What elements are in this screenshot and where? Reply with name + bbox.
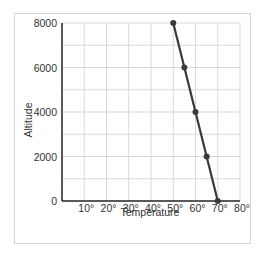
y-tick-label: 6000 — [34, 62, 58, 74]
y-tick-label: 0 — [51, 195, 57, 207]
x-axis-label: Temperature — [121, 206, 180, 218]
data-point — [170, 20, 176, 26]
y-axis-label: Altitude — [22, 102, 34, 137]
y-tick-label: 4000 — [34, 106, 58, 118]
data-point — [193, 109, 199, 115]
x-tick-label: 20° — [101, 202, 117, 214]
x-tick-label: 10° — [78, 202, 94, 214]
y-tick-label: 8000 — [34, 17, 58, 29]
data-point — [181, 65, 187, 71]
data-point — [215, 198, 221, 204]
y-tick-labels: 02000400060008000 — [34, 17, 58, 207]
line-chart: 02000400060008000 10°20°30°40°50°60°70°8… — [0, 0, 266, 260]
grid — [62, 23, 240, 201]
x-tick-label: 80° — [234, 202, 250, 214]
y-tick-label: 2000 — [34, 151, 58, 163]
data-point — [204, 154, 210, 160]
x-tick-label: 70° — [212, 202, 228, 214]
x-tick-label: 60° — [190, 202, 206, 214]
